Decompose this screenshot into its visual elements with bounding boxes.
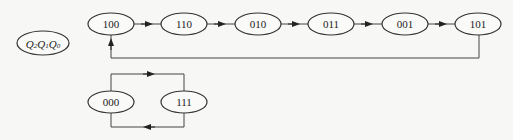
state-node-010: 010 bbox=[235, 13, 281, 35]
legend-ellipse: Q2Q1Q0 bbox=[17, 31, 69, 55]
svg-text:001: 001 bbox=[397, 18, 414, 30]
svg-text:100: 100 bbox=[103, 18, 120, 30]
state-node-111: 111 bbox=[161, 91, 207, 113]
svg-text:110: 110 bbox=[176, 18, 193, 30]
legend-label: Q2Q1Q0 bbox=[26, 38, 61, 50]
svg-text:011: 011 bbox=[323, 18, 339, 30]
edge-000-111 bbox=[111, 74, 184, 91]
svg-text:101: 101 bbox=[470, 18, 487, 30]
svg-text:010: 010 bbox=[250, 18, 267, 30]
state-node-011: 011 bbox=[308, 13, 354, 35]
state-node-101: 101 bbox=[455, 13, 501, 35]
edge-101-100 bbox=[111, 35, 479, 58]
state-node-100: 100 bbox=[88, 13, 134, 35]
state-node-110: 110 bbox=[161, 13, 207, 35]
state-node-001: 001 bbox=[382, 13, 428, 35]
state-node-000: 000 bbox=[88, 91, 134, 113]
svg-text:000: 000 bbox=[103, 96, 120, 108]
svg-text:111: 111 bbox=[176, 96, 192, 108]
state-diagram: Q2Q1Q0 100 110 010 011 001 101 000 111 bbox=[0, 0, 513, 140]
edge-111-000 bbox=[111, 113, 184, 127]
